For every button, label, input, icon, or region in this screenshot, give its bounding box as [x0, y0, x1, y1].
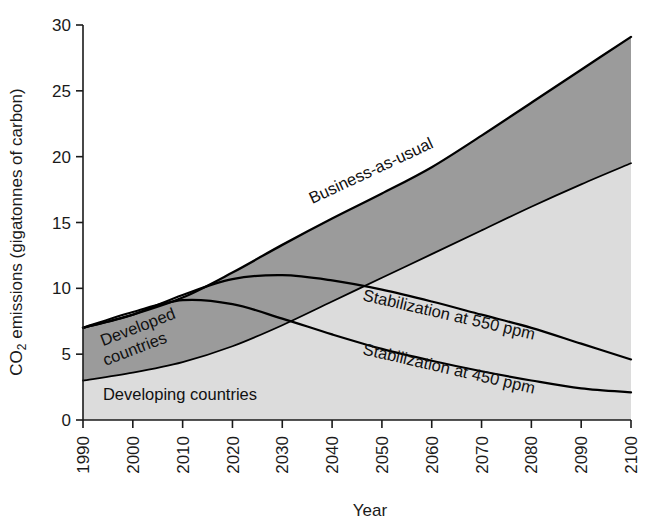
chart-container: 1990200020102020203020402050206020702080… — [0, 0, 657, 530]
y-tick-label: 25 — [52, 82, 71, 101]
x-axis-title: Year — [353, 501, 388, 520]
y-tick-label: 10 — [52, 279, 71, 298]
annotation-developing: Developing countries — [103, 385, 257, 403]
x-tick-label: 2040 — [323, 436, 342, 474]
y-tick-label: 0 — [62, 411, 71, 430]
x-tick-label: 2060 — [423, 436, 442, 474]
x-tick-label: 2050 — [373, 436, 392, 474]
svg-text:CO2 emissions (gigatonnes of c: CO2 emissions (gigatonnes of carbon) — [7, 88, 29, 375]
x-tick-label: 2000 — [124, 436, 143, 474]
y-tick-label: 15 — [52, 214, 71, 233]
x-tick-label: 2020 — [224, 436, 243, 474]
y-axis-title-suffix: emissions (gigatonnes of carbon) — [7, 88, 26, 343]
y-axis-title: CO2 emissions (gigatonnes of carbon) — [7, 88, 29, 375]
emissions-scenarios-chart: 1990200020102020203020402050206020702080… — [0, 0, 657, 530]
y-tick-label: 30 — [52, 16, 71, 35]
x-tick-label: 1990 — [74, 436, 93, 474]
y-tick-label: 5 — [62, 345, 71, 364]
x-tick-label: 2080 — [522, 436, 541, 474]
x-tick-label: 2090 — [572, 436, 591, 474]
x-tick-label: 2030 — [273, 436, 292, 474]
x-tick-label: 2070 — [473, 436, 492, 474]
x-tick-label: 2100 — [622, 436, 641, 474]
y-axis-title-prefix: CO — [7, 350, 26, 376]
x-tick-label: 2010 — [174, 436, 193, 474]
y-tick-label: 20 — [52, 148, 71, 167]
